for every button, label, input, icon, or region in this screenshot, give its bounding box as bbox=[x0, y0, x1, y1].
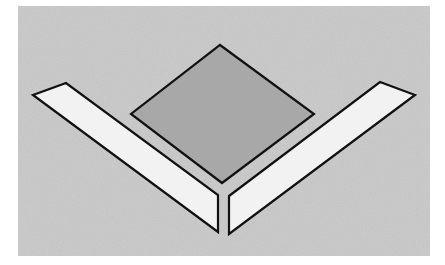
diagram-canvas bbox=[0, 0, 445, 265]
